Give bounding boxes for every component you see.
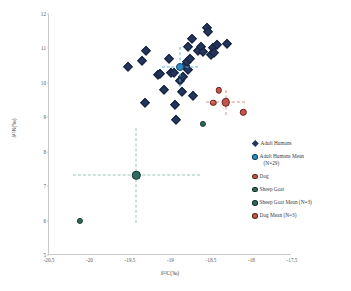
y-axis-tick: 9 [43, 114, 46, 120]
x-axis-tick: -20.5 [44, 257, 55, 263]
y-axis-label: δ¹⁵N(‰) [11, 119, 17, 138]
data-point[interactable] [171, 115, 181, 125]
legend-label: Adult Humans [261, 140, 292, 147]
data-point[interactable] [216, 87, 222, 93]
y-axis-tick: 8 [43, 149, 46, 155]
x-axis-tick: -17.5 [287, 257, 298, 263]
legend-marker-icon [252, 200, 258, 206]
legend-marker-icon [252, 213, 258, 219]
data-point[interactable] [122, 62, 132, 72]
data-point[interactable] [188, 91, 198, 101]
data-point[interactable] [222, 39, 232, 49]
x-axis-tick: -18.5 [206, 257, 217, 263]
x-axis-tick: -19.5 [125, 257, 136, 263]
legend-label: Adult Humans Mean(N=29) [260, 153, 304, 166]
y-axis-tick: 10 [41, 80, 46, 86]
legend-label: Sheep Goat [260, 186, 285, 193]
data-point[interactable] [139, 98, 149, 108]
legend-marker-icon [252, 174, 258, 180]
data-point-mean[interactable] [221, 98, 229, 106]
legend-item[interactable]: Adult Humans [252, 140, 350, 147]
data-point[interactable] [164, 54, 174, 64]
legend-marker-icon [252, 154, 258, 160]
legend-item[interactable]: Dog Mean (N=3) [252, 212, 350, 219]
data-point[interactable] [169, 100, 179, 110]
y-axis-tick: 7 [43, 183, 46, 189]
legend-label: Sheep Goat Mean (N=3) [260, 199, 312, 206]
legend-marker-icon [252, 140, 258, 146]
legend-label-secondary: (N=29) [260, 160, 304, 167]
data-point[interactable] [159, 85, 169, 95]
legend-label: Dog Mean (N=3) [260, 212, 297, 219]
legend-item[interactable]: Adult Humans Mean(N=29) [252, 153, 350, 166]
legend-label: Dog [260, 173, 269, 180]
y-axis-tick: 12 [41, 11, 46, 17]
x-axis-label: δ¹³C(‰) [161, 270, 179, 276]
x-axis-tick: -19 [167, 257, 174, 263]
x-axis-tick: -20 [86, 257, 93, 263]
data-point[interactable] [200, 121, 206, 127]
x-axis-tick: -18 [248, 257, 255, 263]
y-axis-tick: 6 [43, 218, 46, 224]
legend-marker-icon [252, 187, 258, 193]
data-point[interactable] [240, 109, 246, 115]
y-axis-tick: 11 [41, 45, 46, 51]
data-point[interactable] [137, 56, 147, 66]
data-point[interactable] [177, 87, 187, 97]
data-point-mean[interactable] [132, 171, 140, 179]
legend-item[interactable]: Sheep Goat [252, 186, 350, 193]
data-point[interactable] [77, 217, 83, 223]
legend-item[interactable]: Sheep Goat Mean (N=3) [252, 199, 350, 206]
legend-item[interactable]: Dog [252, 173, 350, 180]
data-point-mean[interactable] [176, 63, 184, 71]
data-point[interactable] [141, 46, 151, 56]
chart-container: δ¹⁵N(‰) δ¹³C(‰) 56789101112-20.5-20-19.5… [0, 0, 351, 291]
chart-legend: Adult HumansAdult Humans Mean(N=29)DogSh… [252, 140, 350, 225]
